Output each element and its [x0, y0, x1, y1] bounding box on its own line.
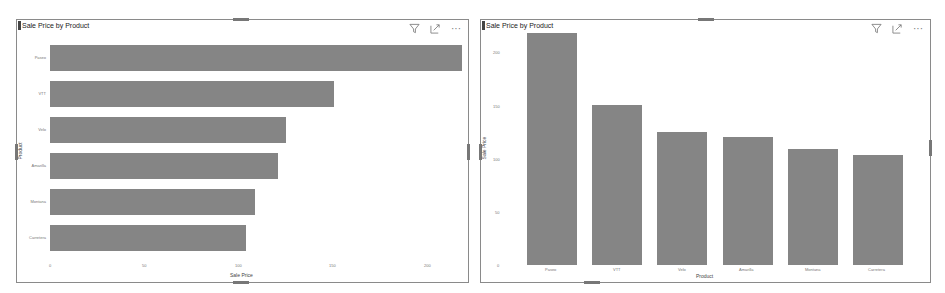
y-axis-title: Sale Price	[481, 137, 487, 160]
y-tick: 200	[493, 50, 500, 55]
more-options-icon[interactable]: ···	[450, 22, 462, 34]
bar-amarilla[interactable]	[723, 137, 773, 265]
resize-handle-top[interactable]	[698, 18, 714, 21]
plot-area	[527, 32, 915, 265]
bar-carretera[interactable]	[50, 225, 246, 251]
visual-left-horizontal-bar-chart[interactable]: Sale Price by Product ··· Product Paseo …	[16, 19, 469, 283]
bar-vtt[interactable]	[50, 81, 334, 107]
category-label: Velo	[38, 127, 46, 132]
y-tick: 100	[493, 157, 500, 162]
y-tick: 0	[497, 263, 499, 268]
visual-right-column-chart[interactable]: Sale Price by Product ··· Sale Price 200…	[480, 19, 931, 283]
bar-vtt[interactable]	[592, 105, 642, 265]
bar-paseo[interactable]	[50, 45, 462, 71]
filter-icon[interactable]	[408, 22, 420, 34]
plot-area: Paseo VTT Velo Amarilla Montana Carreter…	[50, 45, 462, 257]
category-label: VTT	[613, 267, 621, 272]
category-label: Paseo	[35, 55, 46, 60]
category-label: Montana	[30, 199, 46, 204]
resize-handle-right[interactable]	[929, 140, 932, 156]
bar-montana[interactable]	[788, 149, 838, 265]
bar-amarilla[interactable]	[50, 153, 278, 179]
category-label: VTT	[38, 91, 46, 96]
bar-velo[interactable]	[50, 117, 286, 143]
resize-handle-bottom[interactable]	[584, 281, 600, 284]
bar-paseo[interactable]	[527, 33, 577, 265]
x-tick: 50	[142, 263, 146, 268]
visual-header-icons: ···	[408, 21, 462, 35]
x-axis-title: Product	[696, 273, 713, 279]
resize-handle-right[interactable]	[467, 144, 470, 160]
x-tick: 150	[329, 263, 336, 268]
y-tick: 50	[495, 210, 499, 215]
bar-carretera[interactable]	[853, 155, 903, 265]
resize-handle-top[interactable]	[233, 18, 249, 21]
category-label: Amarilla	[32, 163, 46, 168]
x-tick: 0	[49, 263, 51, 268]
category-label: Carretera	[29, 235, 46, 240]
resize-handle-bottom[interactable]	[233, 281, 249, 284]
focus-mode-icon[interactable]	[429, 22, 441, 34]
x-tick: 200	[424, 263, 431, 268]
category-label: Amarilla	[739, 267, 753, 272]
x-tick: 100	[235, 263, 242, 268]
y-axis-title: Product	[17, 142, 23, 159]
category-label: Paseo	[545, 267, 556, 272]
x-axis-title: Sale Price	[230, 272, 253, 278]
bar-velo[interactable]	[657, 132, 707, 265]
category-label: Carretera	[868, 267, 885, 272]
chart-title: Sale Price by Product	[18, 21, 89, 30]
category-label: Montana	[805, 267, 821, 272]
bar-montana[interactable]	[50, 189, 255, 215]
chart-title: Sale Price by Product	[482, 21, 553, 30]
y-tick: 150	[493, 104, 500, 109]
category-label: Velo	[678, 267, 686, 272]
